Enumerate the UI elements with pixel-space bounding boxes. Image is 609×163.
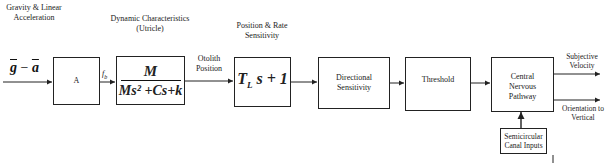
position-rate-label: Position & Rate Sensitivity (228, 21, 296, 41)
block-directional-sensitivity: Directional Sensitivity (318, 57, 390, 109)
output-orientation-to-vertical: Orientation to Vertical (558, 104, 608, 122)
input-label: Gravity & Linear Acceleration (2, 3, 66, 23)
fb-label: fb (102, 69, 107, 80)
transfer-function: M Ms² +Cs+k (119, 63, 182, 99)
dynamic-label: Dynamic Characteristics (Utricle) (110, 14, 190, 34)
block-dynamic-characteristics: M Ms² +Cs+k (116, 56, 185, 105)
block-central-nervous-pathway: Central Nervous Pathway (491, 57, 554, 112)
output-subjective-velocity: Subjective Velocity (560, 52, 604, 70)
otolith-label: Otolith Position (188, 54, 230, 74)
input-signal: g − a (10, 60, 39, 76)
block-threshold: Threshold (405, 57, 471, 111)
block-a: A (53, 57, 100, 105)
block-semicircular-canal-inputs: Semicircular Canal Inputs (500, 128, 547, 154)
block-position-rate: TL s + 1 (234, 57, 291, 107)
